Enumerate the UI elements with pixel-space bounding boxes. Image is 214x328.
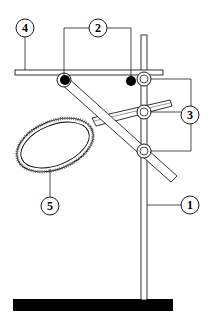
clamp-joint-top-inner: [140, 75, 148, 83]
svg-text:4: 4: [22, 21, 28, 35]
screw-point-left: [60, 75, 70, 85]
svg-text:5: 5: [47, 199, 53, 213]
label-3: 3: [181, 106, 199, 124]
screw-point-right: [126, 76, 136, 86]
label-2: 2: [89, 19, 107, 37]
svg-text:2: 2: [95, 21, 101, 35]
svg-text:3: 3: [187, 108, 193, 122]
stand-base: [13, 299, 173, 311]
label-5: 5: [41, 197, 59, 215]
ring-stand-diagram: 4 2 3 5 1: [0, 0, 214, 328]
clamp-joint-middle-inner: [140, 108, 148, 116]
svg-text:1: 1: [187, 198, 193, 212]
label-1: 1: [181, 196, 199, 214]
label-4: 4: [16, 19, 34, 37]
clamp-joint-bottom-inner: [140, 147, 148, 155]
